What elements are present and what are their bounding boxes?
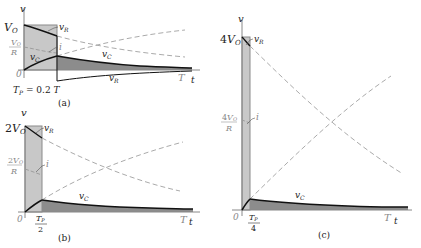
vc-dashed-extension bbox=[250, 76, 391, 199]
v-peak-label: 2VO bbox=[5, 122, 26, 136]
origin-label: 0 bbox=[17, 214, 23, 224]
panel-caption: (c) bbox=[318, 230, 330, 240]
vc-label: vC bbox=[295, 190, 305, 201]
vr-dashed-extension bbox=[250, 46, 403, 174]
T-label: T bbox=[384, 212, 392, 223]
vc-label-right: vC bbox=[102, 49, 112, 60]
y-axis-label: v bbox=[20, 3, 26, 14]
vc-dashed-extension bbox=[57, 30, 185, 56]
panel-caption: (a) bbox=[58, 98, 70, 108]
current-label: i bbox=[59, 42, 62, 52]
pulse-width-label: TP 2 bbox=[35, 214, 47, 234]
pulse-width-label: TP 4 bbox=[248, 213, 260, 233]
panel-b: v 2VO 2VO R 0 vR i vC TP 2 T t (b) bbox=[5, 107, 200, 243]
vr-label-top: vR bbox=[44, 123, 54, 134]
vr-dashed-extension bbox=[57, 36, 185, 57]
svg-text:4VO: 4VO bbox=[222, 113, 237, 122]
v-peak-label: VO bbox=[4, 21, 18, 35]
svg-text:2VO: 2VO bbox=[8, 156, 23, 165]
svg-text:VO: VO bbox=[11, 38, 21, 47]
vr-label-top: vR bbox=[59, 22, 69, 33]
y-axis-label: v bbox=[21, 107, 27, 118]
svg-text:R: R bbox=[10, 48, 17, 57]
panel-c: v 4VO 4VO R 0 vR i vC TP 4 T t (c) bbox=[220, 13, 412, 240]
current-scale-label: 2VO R bbox=[7, 156, 23, 176]
v-peak-label: 4VO bbox=[220, 33, 241, 47]
current-label: i bbox=[256, 112, 259, 122]
current-scale-label: VO R bbox=[9, 38, 21, 57]
vc-decay-area bbox=[42, 200, 193, 212]
vc-label: vC bbox=[79, 191, 89, 202]
x-axis-label: t bbox=[191, 75, 195, 85]
pulse-rect bbox=[25, 126, 42, 212]
svg-text:R: R bbox=[225, 124, 232, 133]
rc-pulse-response-diagram: v VO VO R 0 vR i vC vC vR T t TP = 0.2 T… bbox=[0, 0, 421, 248]
origin-label: 0 bbox=[16, 69, 22, 79]
pulse-rect bbox=[242, 37, 250, 210]
vr-dashed-extension bbox=[42, 138, 180, 191]
y-axis-label: v bbox=[238, 13, 244, 24]
svg-text:4: 4 bbox=[251, 224, 256, 233]
origin-label: 0 bbox=[233, 212, 239, 222]
current-scale-label: 4VO R bbox=[221, 113, 237, 133]
svg-text:2: 2 bbox=[38, 225, 43, 234]
pulse-rect bbox=[24, 25, 57, 70]
x-axis-label: t bbox=[394, 216, 398, 226]
vr-label-top: vR bbox=[254, 34, 264, 45]
current-label: i bbox=[46, 159, 49, 169]
panel-a: v VO VO R 0 vR i vC vC vR T t TP = 0.2 T… bbox=[4, 3, 200, 108]
T-label: T bbox=[180, 214, 188, 225]
vc-dashed-extension bbox=[42, 142, 183, 200]
svg-text:TP: TP bbox=[249, 213, 258, 222]
svg-text:R: R bbox=[10, 167, 17, 176]
T-label: T bbox=[178, 72, 186, 83]
pulse-width-label: TP = 0.2 T bbox=[13, 85, 61, 96]
svg-text:TP: TP bbox=[36, 214, 45, 223]
x-axis-label: t bbox=[189, 217, 193, 227]
panel-caption: (b) bbox=[58, 233, 71, 243]
